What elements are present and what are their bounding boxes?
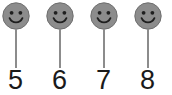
lollipop-item: 6 [38, 0, 81, 95]
smiley-face-icon [2, 2, 30, 30]
lollipop-stem [147, 29, 149, 68]
smiley-face-icon [90, 2, 118, 30]
lollipop-stem [103, 29, 105, 68]
smiley-face-icon [134, 2, 162, 30]
item-label: 5 [0, 66, 37, 95]
lollipop-item: 8 [126, 0, 169, 95]
lollipop-stem [15, 29, 17, 68]
item-label: 7 [82, 66, 125, 95]
lollipop-item: 7 [82, 0, 125, 95]
item-label: 8 [126, 66, 169, 95]
lollipop-item: 5 [0, 0, 37, 95]
smiley-face-icon [46, 2, 74, 30]
lollipop-stem [59, 29, 61, 68]
diagram-canvas: 5 6 7 [0, 0, 172, 95]
item-label: 6 [38, 66, 81, 95]
